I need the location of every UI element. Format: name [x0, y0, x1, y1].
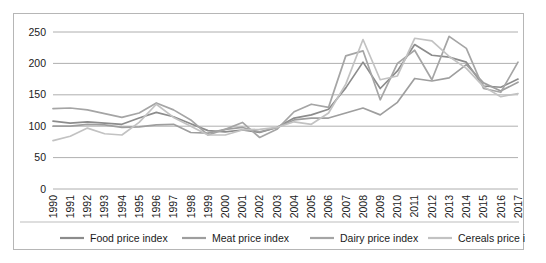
x-tick-label: 1998: [185, 195, 197, 219]
legend-label-meat-price-index[interactable]: Meat price index: [212, 232, 290, 244]
x-tick-label: 2017: [512, 195, 524, 219]
y-tick-label: 0: [40, 183, 46, 195]
x-tick-label: 1993: [98, 195, 110, 219]
y-axis-tick-labels: 050100150200250: [28, 26, 46, 195]
x-tick-label: 2010: [391, 195, 403, 219]
x-tick-label: 2009: [374, 195, 386, 219]
x-tick-label: 2006: [322, 195, 334, 219]
y-tick-label: 250: [28, 26, 46, 38]
x-tick-label: 2008: [357, 195, 369, 219]
line-chart: 050100150200250 199019911992199319941995…: [14, 14, 525, 251]
x-tick-label: 1995: [133, 195, 145, 219]
x-tick-label: 2004: [288, 195, 300, 219]
data-series: [53, 36, 518, 140]
x-tick-label: 2014: [460, 195, 472, 219]
x-tick-label: 2001: [236, 195, 248, 219]
chart-legend: Food price indexMeat price indexDairy pr…: [60, 232, 525, 244]
x-tick-label: 1994: [116, 195, 128, 219]
x-tick-label: 2003: [271, 195, 283, 219]
series-line-meat-price-index: [53, 65, 518, 133]
x-tick-label: 2016: [495, 195, 507, 219]
legend-label-cereals-price-index[interactable]: Cereals price index: [458, 232, 525, 244]
x-tick-label: 1992: [81, 195, 93, 219]
series-line-food-price-index: [53, 45, 518, 133]
x-tick-label: 1999: [202, 195, 214, 219]
series-line-cereals-price-index: [53, 38, 518, 140]
y-tick-label: 200: [28, 57, 46, 69]
chart-card: 050100150200250 199019911992199319941995…: [13, 13, 524, 250]
y-tick-label: 100: [28, 120, 46, 132]
x-tick-label: 1996: [150, 195, 162, 219]
y-tick-label: 50: [34, 151, 46, 163]
chart-canvas: 050100150200250 199019911992199319941995…: [14, 14, 525, 251]
x-tick-label: 2000: [219, 195, 231, 219]
legend-label-food-price-index[interactable]: Food price index: [90, 232, 168, 244]
x-tick-label: 2005: [305, 195, 317, 219]
x-axis-tick-labels: 1990199119921993199419951996199719981999…: [47, 195, 524, 219]
x-tick-label: 1997: [167, 195, 179, 219]
x-tick-label: 1990: [47, 195, 59, 219]
x-tick-label: 2002: [253, 195, 265, 219]
x-tick-label: 2012: [426, 195, 438, 219]
legend-label-dairy-price-index[interactable]: Dairy price index: [340, 232, 419, 244]
y-tick-label: 150: [28, 88, 46, 100]
x-tick-label: 2015: [477, 195, 489, 219]
x-tick-label: 2011: [408, 195, 420, 218]
x-tick-label: 1991: [64, 195, 76, 219]
x-tick-label: 2007: [340, 195, 352, 219]
x-tick-label: 2013: [443, 195, 455, 219]
